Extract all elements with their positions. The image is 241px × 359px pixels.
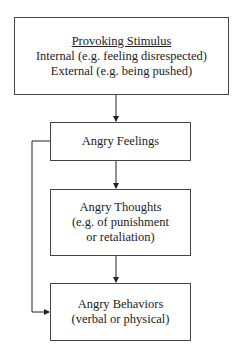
node-title: Angry Behaviors: [78, 297, 164, 312]
node-line: or retaliation): [86, 230, 154, 245]
node-angry-feelings: Angry Feelings: [50, 122, 191, 161]
node-line: (e.g. of punishment: [72, 215, 169, 230]
node-title: Angry Feelings: [82, 134, 159, 149]
arrow-feelings-to-behaviors-bypass: [32, 141, 50, 312]
node-provoking-stimulus: Provoking Stimulus Internal (e.g. feelin…: [14, 17, 229, 95]
node-line: External (e.g. being pushed): [51, 64, 192, 79]
node-line: (verbal or physical): [72, 312, 170, 327]
node-line: Internal (e.g. feeling disrespected): [36, 49, 207, 64]
node-angry-thoughts: Angry Thoughts (e.g. of punishment or re…: [50, 189, 191, 256]
node-title: Angry Thoughts: [79, 200, 161, 215]
node-angry-behaviors: Angry Behaviors (verbal or physical): [50, 283, 191, 341]
node-title: Provoking Stimulus: [72, 34, 172, 49]
